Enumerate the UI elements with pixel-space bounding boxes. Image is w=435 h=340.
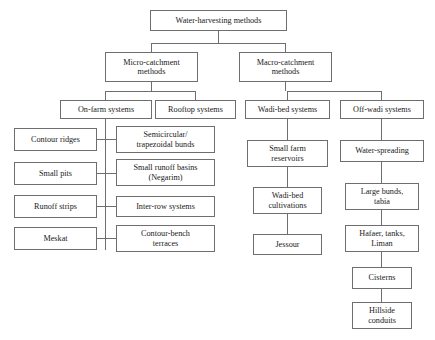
node-macro-catchment-methods: Macro-catchment methods: [239, 52, 332, 82]
node-jessour: Jessour: [253, 234, 322, 255]
node-label: Inter-row systems: [136, 202, 195, 211]
node-label: Rooftop systems: [168, 105, 223, 114]
node-label: Jessour: [275, 240, 299, 249]
node-label: Small pits: [39, 169, 72, 178]
node-small-runoff-basins-negarim: Small runoff basins (Negarim): [116, 159, 215, 186]
node-cisterns: Cisterns: [352, 267, 412, 289]
node-label: Water-harvesting methods: [176, 16, 262, 25]
node-large-bunds-tabia: Large bunds, tabia: [345, 183, 419, 210]
node-off-wadi-systems: Off-wadi systems: [340, 100, 424, 119]
node-water-spreading: Water-spreading: [340, 140, 424, 162]
node-label: Wadi-bed cultivations: [268, 191, 306, 209]
node-label: Contour ridges: [31, 135, 80, 144]
node-micro-catchment-methods: Micro-catchment methods: [105, 52, 198, 82]
node-label: Contour-bench terraces: [141, 229, 190, 247]
node-label: On-farm systems: [78, 105, 134, 114]
node-label: Micro-catchment methods: [123, 58, 179, 76]
node-label: Small runoff basins (Negarim): [134, 163, 198, 181]
node-label: Water-spreading: [355, 146, 409, 155]
node-contour-bench-terraces: Contour-bench terraces: [116, 225, 215, 252]
node-label: Off-wadi systems: [353, 105, 411, 114]
node-label: Wadi-bed systems: [258, 105, 318, 114]
node-label: Semicircular/ trapezoidal bunds: [137, 130, 195, 148]
node-semicircular-trapezoidal-bunds: Semicircular/ trapezoidal bunds: [116, 126, 215, 153]
node-wadi-bed-cultivations: Wadi-bed cultivations: [253, 187, 322, 214]
node-label: Hafaer, tanks, Liman: [359, 229, 404, 247]
node-label: Macro-catchment methods: [257, 58, 315, 76]
node-hillside-conduits: Hillside conduits: [352, 302, 412, 329]
node-meskat: Meskat: [14, 227, 97, 250]
node-wadi-bed-systems: Wadi-bed systems: [245, 100, 330, 119]
node-label: Cisterns: [369, 273, 396, 282]
node-label: Small farm reservoirs: [269, 144, 306, 162]
node-rooftop-systems: Rooftop systems: [155, 100, 236, 119]
node-contour-ridges: Contour ridges: [14, 128, 97, 151]
node-label: Runoff strips: [34, 202, 77, 211]
node-label: Large bunds, tabia: [361, 187, 404, 205]
node-small-farm-reservoirs: Small farm reservoirs: [247, 140, 328, 167]
node-hafaer-tanks-liman: Hafaer, tanks, Liman: [345, 225, 419, 252]
node-inter-row-systems: Inter-row systems: [116, 196, 215, 217]
node-label: Meskat: [43, 234, 67, 243]
node-on-farm-systems: On-farm systems: [60, 100, 152, 119]
node-label: Hillside conduits: [368, 306, 396, 324]
node-small-pits: Small pits: [14, 162, 97, 185]
water-harvesting-flowchart: Water-harvesting methods Micro-catchment…: [0, 0, 435, 340]
node-runoff-strips: Runoff strips: [14, 195, 97, 218]
node-water-harvesting-methods: Water-harvesting methods: [150, 10, 287, 31]
